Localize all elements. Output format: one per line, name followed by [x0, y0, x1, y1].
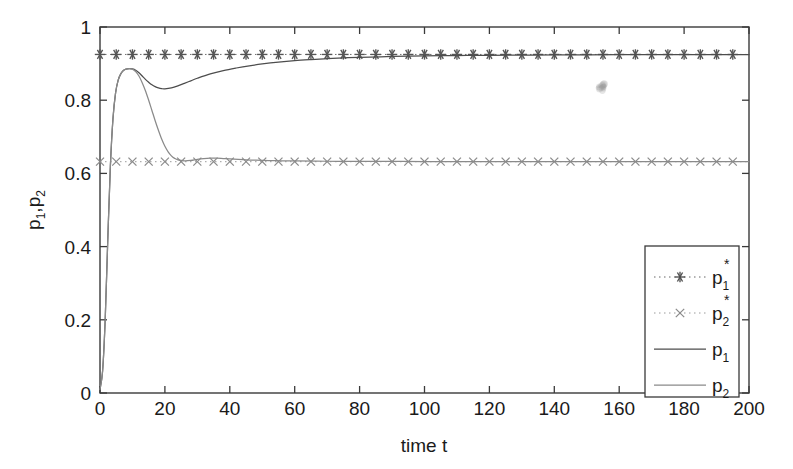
x-axis-title: time t	[401, 435, 448, 456]
legend-label-base: p	[712, 375, 723, 396]
x-tick-label: 20	[154, 398, 175, 419]
y-label-p2: p	[23, 197, 44, 208]
smudge-dot	[599, 85, 604, 90]
legend-label-superscript-star: *	[724, 256, 730, 272]
legend[interactable]: p1*p2*p1p2	[645, 246, 739, 401]
y-tick-label: 1	[80, 17, 91, 38]
legend-label-superscript-star: *	[724, 292, 730, 308]
x-tick-label: 80	[349, 398, 370, 419]
x-tick-label: 180	[668, 398, 700, 419]
y-tick-label: 0	[80, 383, 91, 404]
y-tick-label: 0.6	[65, 163, 91, 184]
legend-label-base: p	[712, 339, 723, 360]
x-tick-label: 160	[603, 398, 635, 419]
y-tick-label: 0.4	[65, 237, 92, 258]
legend-label-sub: 1	[723, 279, 730, 293]
y-label-sub2: 2	[34, 190, 48, 197]
x-tick-label: 60	[284, 398, 305, 419]
x-tick-label: 200	[733, 398, 765, 419]
x-tick-label: 40	[219, 398, 240, 419]
x-tick-label: 100	[409, 398, 441, 419]
x-tick-label: 120	[474, 398, 506, 419]
legend-label-sub: 1	[723, 351, 730, 365]
legend-label-sub: 2	[723, 387, 730, 401]
legend-label-base: p	[712, 303, 723, 324]
y-label-p1: p	[23, 219, 44, 230]
legend-label-base: p	[712, 267, 723, 288]
legend-label-sub: 2	[723, 315, 730, 329]
x-tick-label: 0	[95, 398, 106, 419]
figure-container: 020406080100120140160180200 00.20.40.60.…	[0, 0, 793, 469]
y-tick-label: 0.2	[65, 310, 91, 331]
plot-svg: 020406080100120140160180200 00.20.40.60.…	[0, 0, 793, 469]
y-tick-label: 0.8	[65, 90, 91, 111]
x-tick-label: 140	[538, 398, 570, 419]
